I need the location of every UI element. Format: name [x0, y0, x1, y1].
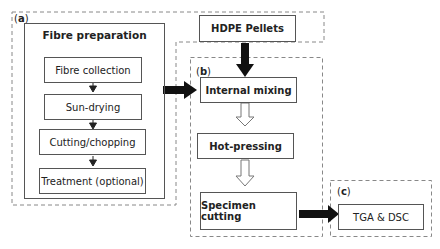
step-hot-pressing: Hot-pressing: [197, 133, 294, 159]
step-treatment: Treatment (optional): [39, 168, 146, 194]
region-c-label: (c): [337, 186, 351, 197]
tga-dsc-box: TGA & DSC: [338, 204, 424, 230]
fibre-to-mixing-arrow: [163, 81, 197, 99]
cutting-to-tga-arrow: [299, 205, 339, 223]
step-internal-mixing: Internal mixing: [200, 77, 297, 103]
hdpe-pellets-box: HDPE Pellets: [199, 15, 296, 42]
hdpe-arrow: [236, 43, 254, 77]
step-sun-drying: Sun-drying: [44, 94, 142, 120]
step-fibre-collection: Fibre collection: [44, 57, 142, 83]
step-cutting-chopping: Cutting/chopping: [39, 129, 146, 155]
region-b-label: (b): [196, 66, 211, 77]
step-specimen-cutting: Specimen cutting: [200, 192, 297, 230]
fibre-prep-title: Fibre preparation: [24, 29, 165, 41]
